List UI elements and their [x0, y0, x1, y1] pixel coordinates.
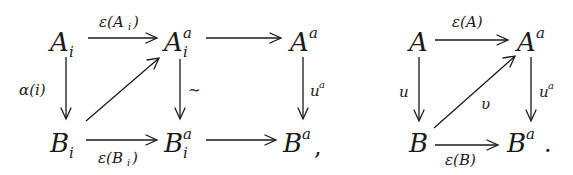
svg-text:): ) [132, 13, 139, 31]
trailing-period: . [544, 130, 552, 158]
svg-text:i: i [128, 21, 131, 32]
node-A-i-a: A a i [162, 24, 192, 61]
arrow-A-a-to-B-a [298, 57, 308, 119]
node-A-i: A i [48, 27, 74, 61]
arrow-A-to-A-a [435, 35, 508, 45]
node-B-a-right: B a . [506, 125, 552, 158]
label-epsilon-B-i: ε(B i ) [98, 149, 138, 168]
arrow-A-to-B [414, 57, 424, 121]
arrow-A-i-a-to-B-i-a [175, 59, 185, 119]
svg-text:i: i [183, 144, 188, 162]
svg-text:i: i [127, 157, 130, 168]
svg-text:B: B [49, 128, 69, 158]
svg-text:A: A [162, 27, 183, 57]
node-B-a: B a , [282, 125, 322, 161]
arrow-B-to-B-a [435, 140, 498, 150]
node-A-a-right: A a [515, 24, 545, 57]
trailing-comma: , [314, 133, 322, 161]
node-B-i-a: B a i [163, 125, 192, 162]
svg-text:i: i [69, 43, 74, 61]
node-B-i: B i [49, 128, 74, 162]
svg-text:A: A [288, 27, 309, 57]
right-diagram: A A a B B a . [399, 13, 554, 169]
svg-text:ε(B: ε(B [98, 149, 123, 167]
svg-text:i: i [183, 43, 188, 61]
arrow-B-i-a-to-B-a [206, 135, 276, 145]
arrow-B-i-to-A-i-a-diagonal [86, 58, 159, 121]
svg-text:a: a [548, 80, 554, 91]
label-u-a-left: u a [310, 79, 325, 100]
arrow-B-to-A-a-diagonal [434, 56, 515, 128]
svg-text:ε(A: ε(A [99, 13, 124, 31]
label-v-diagonal: υ [481, 95, 490, 113]
svg-text:B: B [163, 128, 183, 158]
label-tilde-isomorphism: ∼ [188, 81, 201, 99]
svg-text:a: a [302, 125, 311, 143]
svg-text:a: a [309, 24, 318, 42]
svg-text:A: A [48, 27, 69, 57]
svg-text:B: B [506, 128, 526, 158]
arrow-A-i-a-to-A-a [206, 33, 281, 43]
label-epsilon-A-i: ε(A i ) [99, 13, 139, 32]
label-epsilon-A: ε(A) [452, 13, 483, 31]
svg-text:a: a [183, 24, 192, 42]
arrow-B-i-to-B-i-a [86, 135, 157, 145]
svg-text:i: i [69, 144, 74, 162]
svg-text:a: a [319, 79, 325, 90]
left-diagram: A i A a i A a B i B a i B a , [19, 13, 325, 168]
svg-text:a: a [183, 125, 192, 143]
label-alpha-i: α(i) [19, 81, 46, 99]
svg-text:a: a [526, 125, 535, 143]
label-u: u [399, 83, 409, 101]
svg-text:): ) [131, 149, 138, 167]
label-epsilon-B: ε(B) [445, 151, 476, 169]
arrow-A-i-to-B-i [61, 57, 71, 119]
arrow-A-i-to-A-i-a [88, 33, 157, 43]
svg-text:A: A [515, 27, 536, 57]
node-A-a: A a [288, 24, 318, 57]
label-u-a-right: u a [539, 80, 554, 101]
commutative-diagrams: A i A a i A a B i B a i B a , [0, 0, 573, 175]
arrow-A-a-to-B-a-right [526, 57, 536, 121]
node-B: B [408, 128, 428, 158]
svg-text:a: a [536, 24, 545, 42]
node-A: A [407, 27, 428, 57]
svg-text:B: B [282, 128, 302, 158]
